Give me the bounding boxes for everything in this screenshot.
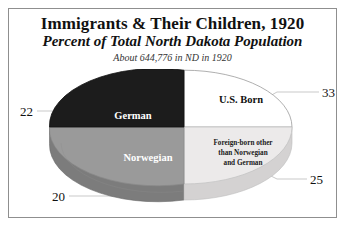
pie-value-foreign-other: 25 bbox=[310, 172, 323, 187]
chart-note: About 644,776 in ND in 1920 bbox=[9, 51, 336, 64]
chart-frame: Immigrants & Their Children, 1920 Percen… bbox=[8, 8, 337, 218]
pie-label-german: German bbox=[114, 110, 151, 121]
title-block: Immigrants & Their Children, 1920 Percen… bbox=[9, 14, 336, 64]
pie-slices bbox=[49, 69, 292, 186]
pie-value-german: 22 bbox=[20, 104, 33, 119]
chart-subtitle: Percent of Total North Dakota Population bbox=[9, 33, 336, 50]
pie-value-us-born: 33 bbox=[322, 85, 335, 100]
pie-value-norwegian: 20 bbox=[52, 189, 65, 204]
pie-label-us-born: U.S. Born bbox=[219, 94, 263, 105]
pie-chart-svg: U.S. Born German Norwegian Foreign-born … bbox=[9, 69, 337, 218]
pie-label-norwegian: Norwegian bbox=[124, 152, 173, 163]
pie-chart: U.S. Born German Norwegian Foreign-born … bbox=[9, 69, 337, 218]
page-title: Immigrants & Their Children, 1920 bbox=[9, 14, 336, 33]
pie-label-foreign-other-line2: than Norwegian bbox=[218, 149, 267, 157]
pie-label-foreign-other-line3: and German bbox=[224, 159, 263, 167]
pie-label-foreign-other-line1: Foreign-born other bbox=[213, 139, 273, 147]
